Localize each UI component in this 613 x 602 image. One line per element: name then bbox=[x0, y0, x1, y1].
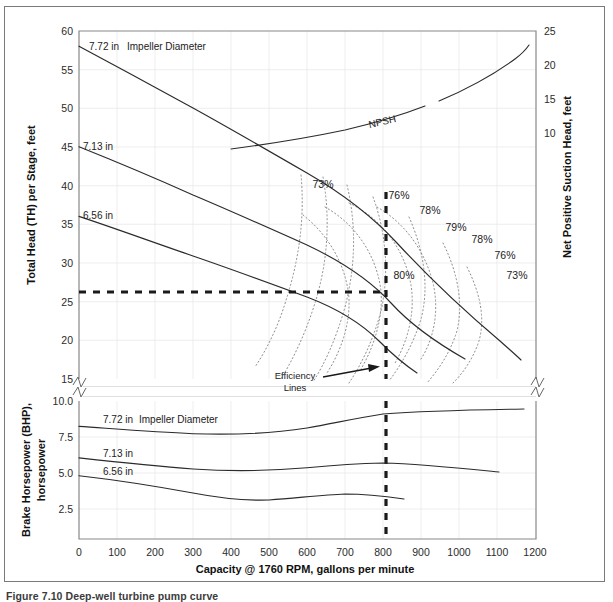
efficiency-label: 73% bbox=[506, 269, 527, 281]
npsh-y-tick: 10 bbox=[544, 127, 556, 139]
bhp-curve-label: 7.13 in bbox=[103, 448, 133, 459]
head-y-tick: 50 bbox=[61, 102, 73, 114]
x-tick: 1100 bbox=[486, 546, 509, 558]
bhp-y-tick: 5.0 bbox=[58, 467, 73, 479]
head-y-axis-title: Total Head (TH) per Stage, feet bbox=[25, 125, 37, 285]
x-axis-title: Capacity @ 1760 RPM, gallons per minute bbox=[196, 563, 415, 575]
x-tick: 500 bbox=[260, 546, 278, 558]
head-y-tick: 20 bbox=[61, 334, 73, 346]
efficiency-label: 73% bbox=[312, 178, 333, 190]
x-tick: 0 bbox=[76, 546, 82, 558]
efficiency-label: 80% bbox=[393, 269, 414, 281]
pump-curve-chart: 60 55 50 45 40 35 30 25 20 15 25 20 15 1… bbox=[5, 7, 606, 583]
head-y-tick: 55 bbox=[61, 64, 73, 76]
npsh-y-axis-ticks: 25 20 15 10 bbox=[544, 25, 556, 139]
efficiency-note-line2: Lines bbox=[284, 382, 307, 393]
head-y-tick: 35 bbox=[61, 218, 73, 230]
figure-frame: 60 55 50 45 40 35 30 25 20 15 25 20 15 1… bbox=[4, 6, 605, 582]
head-curve-label: 7.13 in bbox=[83, 141, 113, 152]
x-tick: 100 bbox=[108, 546, 126, 558]
figure-caption: Figure 7.10 Deep-well turbine pump curve bbox=[6, 590, 526, 602]
bhp-y-tick: 2.5 bbox=[58, 503, 73, 515]
head-y-tick: 15 bbox=[61, 373, 73, 385]
head-y-tick: 25 bbox=[61, 296, 73, 308]
efficiency-label: 78% bbox=[419, 204, 440, 216]
head-curve-label: 7.72 in bbox=[89, 41, 119, 52]
x-tick: 200 bbox=[146, 546, 164, 558]
head-y-tick: 40 bbox=[61, 180, 73, 192]
impeller-diameter-label: Impeller Diameter bbox=[139, 414, 219, 425]
npsh-y-tick: 15 bbox=[544, 93, 556, 105]
head-y-tick: 45 bbox=[61, 141, 73, 153]
bhp-y-axis-title-line1: Brake Horsepower (BHP), bbox=[20, 403, 32, 537]
x-tick: 1000 bbox=[447, 546, 471, 558]
x-tick: 800 bbox=[374, 546, 392, 558]
bhp-y-axis-ticks: 10.0 7.5 5.0 2.5 bbox=[53, 395, 74, 515]
x-axis-ticks: 0 100 200 300 400 500 600 700 800 900 10… bbox=[76, 546, 547, 558]
head-y-axis-ticks: 60 55 50 45 40 35 30 25 20 15 bbox=[61, 25, 73, 385]
bhp-y-tick: 7.5 bbox=[58, 431, 73, 443]
efficiency-label: 76% bbox=[494, 249, 515, 261]
head-curve-label: 6.56 in bbox=[83, 210, 113, 221]
bhp-curve-label: 7.72 in bbox=[103, 414, 133, 425]
efficiency-note-line1: Efficiency bbox=[275, 370, 316, 381]
bhp-y-axis-title-line2: horsepower bbox=[35, 438, 47, 501]
x-tick: 600 bbox=[298, 546, 316, 558]
x-tick: 400 bbox=[222, 546, 240, 558]
efficiency-label: 76% bbox=[388, 189, 409, 201]
efficiency-label: 78% bbox=[471, 233, 492, 245]
x-tick: 700 bbox=[336, 546, 354, 558]
efficiency-label: 79% bbox=[445, 221, 466, 233]
bhp-curve-label: 6.56 in bbox=[103, 466, 133, 477]
x-tick: 1200 bbox=[523, 546, 547, 558]
head-y-tick: 30 bbox=[61, 257, 73, 269]
npsh-y-axis-title: Net Positive Suction Head, feet bbox=[561, 96, 573, 258]
npsh-y-tick: 25 bbox=[544, 25, 556, 37]
bhp-y-tick: 10.0 bbox=[53, 395, 74, 407]
x-tick: 300 bbox=[184, 546, 202, 558]
npsh-y-tick: 20 bbox=[544, 59, 556, 71]
x-tick: 900 bbox=[412, 546, 430, 558]
head-y-tick: 60 bbox=[61, 25, 73, 37]
impeller-diameter-label: Impeller Diameter bbox=[127, 41, 207, 52]
